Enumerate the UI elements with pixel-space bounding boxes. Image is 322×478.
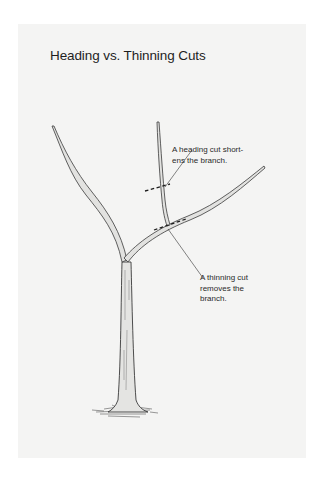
vertical-branch	[157, 122, 170, 226]
trunk	[108, 262, 148, 412]
thinning-leader-line	[168, 229, 203, 278]
left-branch	[52, 126, 127, 262]
tree-illustration	[0, 0, 322, 478]
heading-cut-callout: A heading cut short- ens the branch.	[172, 145, 243, 166]
right-branch	[124, 166, 265, 262]
thinning-cut-callout: A thinning cut removes the branch.	[200, 273, 248, 305]
